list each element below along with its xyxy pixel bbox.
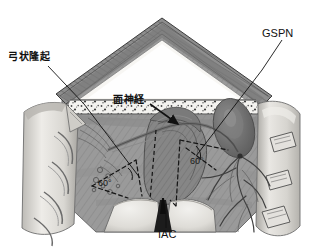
label-gspn: GSPN — [262, 28, 293, 39]
label-angle-right: 60° — [190, 157, 204, 166]
label-facial-nerve: 面神経 — [113, 95, 145, 105]
iac-opening — [104, 198, 216, 232]
label-arcuate-eminence: 弓状隆起 — [8, 52, 50, 62]
right-bone-column — [256, 101, 300, 236]
label-iac: IAC — [158, 229, 176, 240]
vessel-junction — [237, 153, 242, 158]
label-angle-left: 60° — [98, 179, 112, 188]
anatomical-figure: 弓状隆起 GSPN 面神経 IAC 60° 60° — [0, 0, 324, 249]
